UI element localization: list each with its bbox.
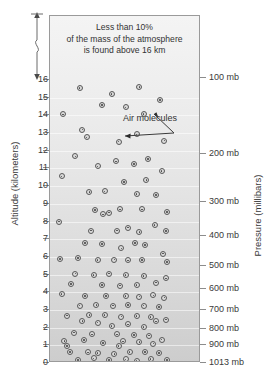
figure-root: Less than 10% of the mass of the atmosph… [0,0,269,378]
air-molecule [103,293,109,299]
air-molecule [157,97,163,103]
air-molecule [153,192,159,198]
altitude-tick-label: 3 [43,304,48,314]
air-molecule [95,320,101,326]
air-molecule [153,280,159,286]
air-molecule [161,295,167,301]
air-molecule [127,349,133,355]
pressure-tick-mark [200,309,206,310]
air-molecule [72,271,78,277]
air-molecule [99,241,105,247]
air-molecule [88,228,94,234]
air-molecule [81,337,87,343]
air-molecule [164,209,170,215]
pressure-axis-title: Pressure (millibars) [252,126,263,306]
air-molecule [118,245,124,251]
altitude-tick-label: 14 [38,109,48,119]
air-molecule [134,313,140,319]
air-molecule [163,275,169,281]
air-molecule [123,272,129,278]
air-molecule [134,191,140,197]
air-molecule [93,302,99,308]
air-molecule [82,240,88,246]
air-molecule [125,321,131,327]
air-molecule [95,163,101,169]
plot-area [49,15,200,362]
pressure-tick-mark [200,235,206,236]
pressure-tick-label: 1013 mb [209,357,244,367]
air-molecule [132,240,138,246]
air-molecule [141,324,147,330]
air-molecule [125,257,131,263]
background-band-line [50,239,199,240]
air-molecule [75,255,81,261]
air-molecule [136,294,142,300]
air-molecule [82,293,88,299]
air-molecule [86,312,92,318]
air-molecule [86,189,92,195]
altitude-tick-label: 1 [43,339,48,349]
air-molecule [163,317,169,323]
background-band-line [50,168,199,169]
air-molecule [110,303,116,309]
background-band-line [50,222,199,223]
air-molecule [56,219,62,225]
pressure-tick-label: 600 mb [209,283,239,293]
pressure-tick-mark [200,362,206,363]
annotation-line-1: Less than 10% [49,22,200,34]
air-molecule [59,291,65,297]
air-molecule [91,272,97,278]
annotation-text-block: Less than 10% of the mass of the atmosph… [49,22,200,57]
air-molecule [131,161,137,167]
air-molecule [77,303,83,309]
air-molecule [85,349,91,355]
altitude-tick-label: 5 [43,269,48,279]
air-molecule [123,293,129,299]
air-molecules-label: Air molecules [123,113,177,123]
air-molecule [109,91,115,97]
altitude-tick-label: 7 [43,233,48,243]
air-molecule [75,357,81,362]
air-molecule [77,85,83,91]
altitude-tick-label: 13 [38,127,48,137]
air-molecule [121,179,127,185]
air-molecule [146,333,152,339]
pressure-tick-mark [200,265,206,266]
air-molecule [156,304,162,310]
air-molecule [152,222,158,228]
background-band-line [50,133,199,134]
air-molecule [64,313,70,319]
air-molecule [116,343,122,349]
air-molecule [59,173,65,179]
air-molecule [116,139,122,145]
pressure-tick-label: 400 mb [209,230,239,240]
air-molecule [102,312,108,318]
altitude-tick-label: 0 [43,357,48,367]
air-molecule [109,323,115,329]
air-molecule [111,351,117,357]
air-molecule [79,318,85,324]
air-molecule [136,339,142,345]
air-molecule [84,134,90,140]
air-molecule [106,357,112,362]
background-band-line [50,204,199,205]
air-molecule [136,84,142,90]
pressure-tick-label: 900 mb [209,339,239,349]
air-molecule [106,210,112,216]
altitude-tick-label: 6 [43,251,48,261]
air-molecule [136,229,142,235]
air-molecule [143,177,149,183]
air-molecules-leader-lines [99,31,200,362]
air-molecule [131,332,137,338]
air-molecule [141,303,147,309]
air-molecule [123,356,129,362]
air-molecule [89,331,95,337]
air-molecule [123,104,129,110]
pressure-tick-label: 500 mb [209,260,239,270]
air-molecule [99,102,105,108]
background-band-line [50,345,199,346]
altitude-tick-label: 4 [43,286,48,296]
air-molecule [141,273,147,279]
air-molecule [159,337,165,343]
air-molecule [71,330,77,336]
